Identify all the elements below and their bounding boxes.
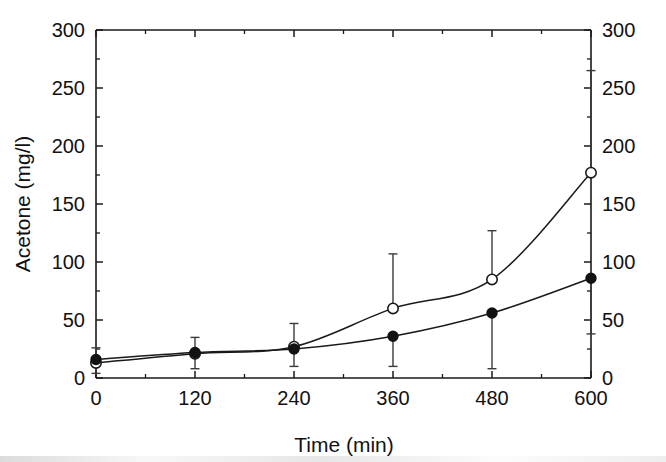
data-point-open-circle [586,167,596,177]
x-tick-label: 0 [90,387,101,409]
data-point-open-circle [388,303,398,313]
x-tick-label: 480 [475,387,508,409]
fit-curve-open-circle-series [96,173,591,363]
data-point-filled-circle [91,354,101,364]
y-tick-label-right: 100 [602,251,635,273]
x-tick-label: 240 [277,387,310,409]
axis-tick-labels: 0050501001001501502002002502503003000120… [52,19,636,409]
data-markers [91,167,596,368]
fit-curve-filled-circle-series [96,278,591,359]
y-tick-label-left: 100 [52,251,85,273]
y-tick-label-right: 250 [602,77,635,99]
data-point-open-circle [487,274,497,284]
data-point-filled-circle [289,344,299,354]
y-tick-label-right: 150 [602,193,635,215]
y-tick-label-left: 200 [52,135,85,157]
error-bars [92,71,596,374]
y-tick-label-right: 50 [602,309,624,331]
y-tick-label-left: 0 [74,367,85,389]
y-tick-label-right: 0 [602,367,613,389]
chart-canvas: 0050501001001501502002002502503003000120… [0,0,666,462]
axis-ticks [96,30,591,378]
fit-curves [96,173,591,363]
data-point-filled-circle [190,347,200,357]
y-tick-label-left: 250 [52,77,85,99]
axes-frame [96,30,591,378]
x-tick-label: 360 [376,387,409,409]
data-point-filled-circle [487,308,497,318]
x-axis-title: Time (min) [294,433,394,456]
y-tick-label-left: 50 [63,309,85,331]
y-tick-label-left: 150 [52,193,85,215]
y-axis-title: Acetone (mg/l) [11,136,34,273]
data-point-filled-circle [388,331,398,341]
data-point-filled-circle [586,273,596,283]
y-tick-label-right: 200 [602,135,635,157]
x-tick-label: 600 [574,387,607,409]
acetone-vs-time-figure: 0050501001001501502002002502503003000120… [0,0,666,462]
x-tick-label: 120 [178,387,211,409]
y-tick-label-left: 300 [52,19,85,41]
y-tick-label-right: 300 [602,19,635,41]
